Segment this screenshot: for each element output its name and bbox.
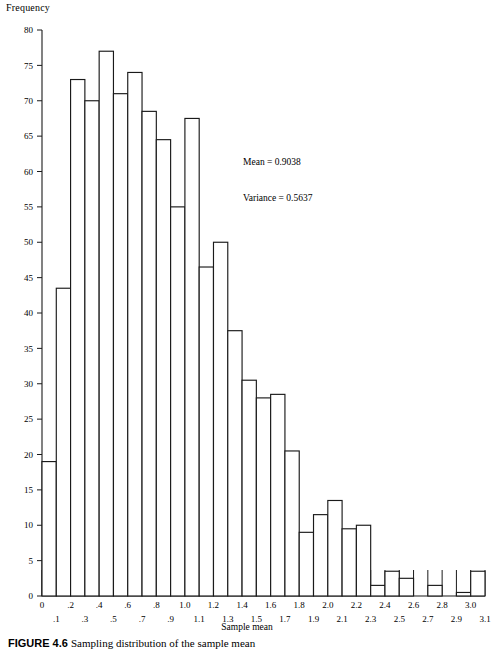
x-axis-tick-label: 1.6 [265,600,277,610]
histogram-bar [42,462,56,596]
histogram-bar [142,111,156,596]
x-axis-tick-label: 1.0 [179,600,191,610]
histogram-bar [242,380,256,596]
y-axis-tick-label: 5 [29,556,34,566]
statistics-annotation: Mean = 0.9038 Variance = 0.5637 [243,132,312,228]
y-axis-tick-label: 35 [24,344,34,354]
figure-caption-label: FIGURE 4.6 [8,637,68,649]
histogram-bar [471,571,485,596]
y-axis-tick-label: 30 [24,379,34,389]
y-axis-tick-label: 40 [24,308,34,318]
histogram-bar [56,288,70,596]
figure-caption-text: Sampling distribution of the sample mean [71,637,255,649]
histogram-bar [113,94,127,596]
histogram-bar [99,51,113,596]
histogram-bar [399,578,413,596]
x-axis-tick-label: 1.8 [294,600,306,610]
x-axis-tick-label: 0 [40,600,45,610]
histogram-bar [285,451,299,596]
y-axis-tick-label: 0 [29,591,34,601]
histogram-bar [342,529,356,596]
y-axis-tick-label: 65 [24,131,34,141]
histogram-bar [299,532,313,596]
variance-annotation: Variance = 0.5637 [243,192,312,204]
y-axis-tick-label: 20 [24,450,34,460]
x-axis-tick-label: 3.0 [465,600,477,610]
y-axis-tick-label: 60 [24,167,34,177]
histogram-bar [85,101,99,596]
x-axis-tick-label: 2.0 [322,600,334,610]
x-axis-tick-label: 2.2 [351,600,362,610]
y-axis-tick-label: 55 [24,202,34,212]
mean-annotation: Mean = 0.9038 [243,156,312,168]
x-axis-tick-label: .2 [67,600,74,610]
x-axis-tick-label: .4 [96,600,103,610]
histogram-bar [456,592,470,596]
histogram-bar [356,525,370,596]
x-axis-tick-label: 1.2 [208,600,219,610]
histogram-bar [156,140,170,596]
histogram-bar [256,398,270,596]
y-axis-tick-label: 80 [24,25,34,35]
y-axis-tick-label: 70 [24,96,34,106]
y-axis-tick-label: 45 [24,273,34,283]
histogram-bar [428,585,442,596]
histogram-bar [213,242,227,596]
x-axis-title: Sample mean [0,622,494,632]
histogram-bar [314,515,328,596]
histogram-bar [371,585,385,596]
y-axis-tick-label: 10 [24,520,34,530]
x-axis-tick-label: 2.6 [408,600,420,610]
histogram-bar [385,571,399,596]
histogram-bar [185,118,199,596]
y-axis-tick-label: 50 [24,237,34,247]
x-axis-tick-label: 1.4 [236,600,248,610]
histogram-bar [271,394,285,596]
histogram-bar [171,207,185,596]
x-axis-tick-label: 2.8 [437,600,449,610]
figure-caption: FIGURE 4.6 Sampling distribution of the … [8,637,255,649]
histogram-bar [128,72,142,596]
x-axis-tick-label: .8 [153,600,160,610]
y-axis-tick-label: 15 [24,485,34,495]
histogram-bar [71,80,85,596]
x-axis-tick-label: 2.4 [379,600,391,610]
histogram-bar [328,500,342,596]
y-axis-tick-label: 25 [24,414,34,424]
histogram-bar [199,267,213,596]
histogram-bar [228,331,242,596]
y-axis-tick-label: 75 [24,61,34,71]
x-axis-tick-label: .6 [124,600,131,610]
